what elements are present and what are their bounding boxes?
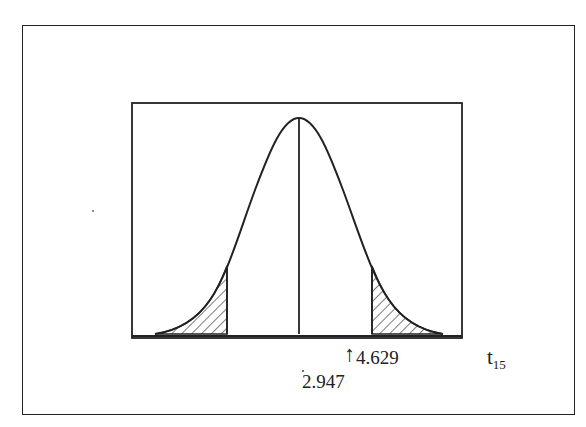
axis-label: t15 [487, 347, 506, 371]
left-tail-region [155, 266, 227, 334]
plot-area-frame [132, 103, 462, 338]
axis-label-subscript: 15 [493, 357, 506, 372]
right-tail-region [372, 266, 443, 334]
critical-value-label: 2.947 [302, 372, 345, 391]
observed-value-label: 4.629 [356, 348, 399, 367]
arrow-up-icon: ↑ [344, 343, 355, 365]
